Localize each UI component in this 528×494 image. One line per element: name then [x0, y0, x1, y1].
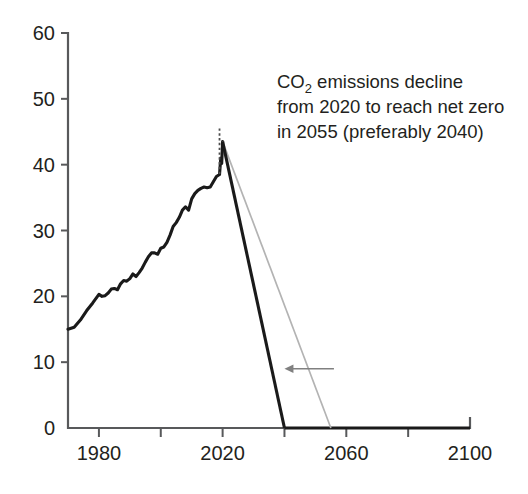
- callout-line-3: in 2055 (preferably 2040): [277, 121, 484, 142]
- x-axis-tick-labels: 1980202020602100: [77, 442, 493, 464]
- data-series: [68, 142, 470, 428]
- callout-line-1: CO2 emissions decline: [277, 71, 463, 96]
- x-tick-label-2060: 2060: [324, 442, 369, 464]
- y-tick-label-40: 40: [33, 154, 55, 176]
- callout-line-2: from 2020 to reach net zero: [277, 96, 504, 117]
- y-tick-label-60: 60: [33, 22, 55, 44]
- series-historical-emissions: [68, 142, 223, 330]
- x-tick-label-2100: 2100: [448, 442, 493, 464]
- x-tick-label-2020: 2020: [200, 442, 245, 464]
- y-tick-label-10: 10: [33, 351, 55, 373]
- arrow-head-icon: [284, 365, 293, 373]
- axes: [61, 33, 470, 437]
- y-axis-tick-labels: 0102030405060: [33, 22, 55, 439]
- y-tick-label-30: 30: [33, 220, 55, 242]
- callout-line-1-rest: emissions decline: [312, 71, 463, 92]
- series-decline-to-2040: [223, 142, 285, 428]
- emissions-pathway-chart: 0102030405060 1980202020602100 CO2 emiss…: [0, 0, 528, 494]
- x-tick-label-1980: 1980: [77, 442, 122, 464]
- callout-co2-subscript: 2: [305, 81, 312, 96]
- y-tick-label-20: 20: [33, 285, 55, 307]
- net-zero-callout: CO2 emissions decline from 2020 to reach…: [277, 71, 504, 142]
- chart-canvas: 0102030405060 1980202020602100 CO2 emiss…: [0, 0, 528, 494]
- y-tick-label-50: 50: [33, 88, 55, 110]
- axis-frame: [68, 33, 470, 428]
- callout-co2-prefix: CO: [277, 71, 305, 92]
- y-tick-label-0: 0: [44, 417, 55, 439]
